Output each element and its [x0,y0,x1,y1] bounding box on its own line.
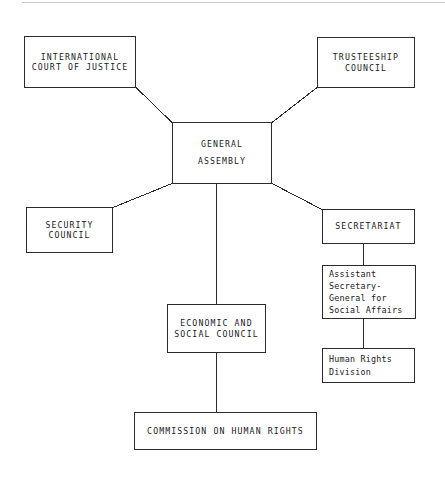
node-economic-and-social-council[interactable]: ECONOMIC AND SOCIAL COUNCIL [167,304,266,353]
node-human-rights-division[interactable]: Human Rights Division [322,348,415,383]
edge-trusteeship-to-general-assembly [272,88,317,123]
edge-icj-to-general-assembly [136,88,172,123]
node-international-court-of-justice[interactable]: INTERNATIONAL COURT OF JUSTICE [24,36,136,88]
node-secretariat[interactable]: SECRETARIAT [322,209,415,244]
organizational-chart: INTERNATIONAL COURT OF JUSTICE TRUSTEESH… [0,0,445,482]
scan-artifact-line [22,2,445,3]
node-general-assembly[interactable]: GENERAL ASSEMBLY [172,122,272,184]
edge-general-assembly-to-secretariat [272,184,322,210]
node-security-council[interactable]: SECURITY COUNCIL [26,207,113,253]
node-assistant-secretary-general-for-social-affairs[interactable]: Assistant Secretary- General for Social … [322,265,416,319]
edge-general-assembly-to-security [113,184,172,208]
node-trusteeship-council[interactable]: TRUSTEESHIP COUNCIL [317,37,415,88]
node-commission-on-human-rights[interactable]: COMMISSION ON HUMAN RIGHTS [134,412,317,450]
